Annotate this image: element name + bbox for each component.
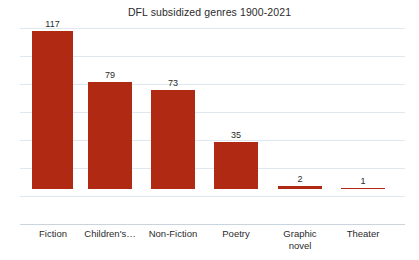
bar-value-label: 117 bbox=[32, 19, 73, 29]
bar-group: 35 bbox=[214, 0, 258, 189]
category-label-poetry: Poetry bbox=[205, 228, 267, 240]
category-label-non-fiction: Non-Fiction bbox=[139, 228, 207, 240]
bar[interactable] bbox=[88, 82, 132, 189]
bar-value-label: 79 bbox=[88, 70, 132, 80]
bar-group: 1 bbox=[341, 0, 385, 189]
bar-value-label: 2 bbox=[278, 174, 322, 184]
bar-chart: DFL subsidized genres 1900-2021 117 79 7… bbox=[0, 0, 419, 260]
bar[interactable] bbox=[32, 31, 73, 189]
bar-value-label: 35 bbox=[214, 130, 258, 140]
category-label-fiction: Fiction bbox=[22, 228, 84, 240]
bar[interactable] bbox=[278, 186, 322, 189]
bar[interactable] bbox=[214, 142, 258, 189]
bar-group: 2 bbox=[278, 0, 322, 189]
category-label-childrens: Children's… bbox=[78, 228, 142, 240]
bar-group: 73 bbox=[151, 0, 195, 189]
bar-value-label: 73 bbox=[151, 78, 195, 88]
bar[interactable] bbox=[341, 188, 385, 190]
bars-layer: 117 79 73 35 2 1 bbox=[0, 0, 419, 225]
category-label-graphic-novel: Graphic novel bbox=[268, 228, 332, 251]
bar-group: 117 bbox=[32, 0, 73, 189]
bar-group: 79 bbox=[88, 0, 132, 189]
category-label-theater: Theater bbox=[331, 228, 395, 240]
bar-value-label: 1 bbox=[341, 176, 385, 186]
bar[interactable] bbox=[151, 90, 195, 189]
